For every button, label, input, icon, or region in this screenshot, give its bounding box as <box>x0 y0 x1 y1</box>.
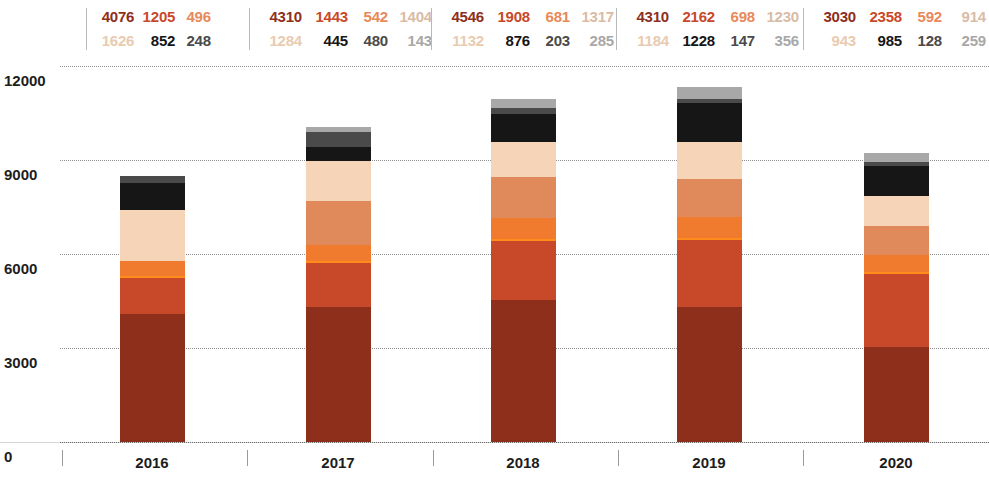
y-axis-label: 0 <box>4 448 56 465</box>
value-label: 542 <box>348 5 388 29</box>
bar-segment-s5 <box>491 142 556 177</box>
value-label: 203 <box>530 29 570 53</box>
bar-segment-s6 <box>306 147 371 161</box>
header-group-separator <box>616 8 617 50</box>
segment-divider-line <box>120 276 185 278</box>
value-label: 852 <box>134 29 175 53</box>
segment-divider-line <box>491 239 556 241</box>
value-label: 356 <box>755 29 799 53</box>
value-label: 681 <box>530 5 570 29</box>
x-axis-label-2017: 2017 <box>278 454 398 471</box>
bar-segment-s4 <box>864 226 929 255</box>
bar-segment-s1 <box>306 307 371 442</box>
bar-segment-s2 <box>677 239 742 307</box>
bar-segment-s2 <box>491 240 556 300</box>
bar-segment-s2 <box>864 273 929 347</box>
value-label: 1132 <box>440 29 484 53</box>
header-group-separator <box>249 8 250 50</box>
x-axis-tick <box>433 450 434 466</box>
value-label-row: 431021626981230 <box>625 5 810 29</box>
value-label-row: 1132876203285 <box>440 29 625 53</box>
bar-2019 <box>677 87 742 442</box>
bar-segment-s8 <box>677 87 742 98</box>
bar-segment-s1 <box>491 300 556 442</box>
value-label: 147 <box>715 29 755 53</box>
bar-segment-s8 <box>864 153 929 161</box>
value-label: 248 <box>175 29 211 53</box>
value-label-group-2016: 407612054961626852248 <box>95 4 250 54</box>
x-axis-tick <box>62 450 63 466</box>
value-label: 3030 <box>812 5 856 29</box>
value-label: 4076 <box>95 5 134 29</box>
value-label: 1284 <box>258 29 302 53</box>
value-label: 1443 <box>302 5 348 29</box>
gridline-0 <box>60 442 989 443</box>
x-axis-label-2016: 2016 <box>92 454 212 471</box>
bar-2020 <box>864 153 929 442</box>
bar-segment-s6 <box>120 183 185 210</box>
value-label: 285 <box>570 29 614 53</box>
value-label: 1230 <box>755 5 799 29</box>
bar-segment-s5 <box>120 210 185 261</box>
bar-2016 <box>120 176 185 442</box>
bar-2017 <box>306 127 371 442</box>
x-axis-label-2019: 2019 <box>649 454 769 471</box>
x-axis-tick <box>247 450 248 466</box>
value-label-row: 943985128259 <box>812 29 987 53</box>
value-label-row: 40761205496 <box>95 5 250 29</box>
value-label: 496 <box>175 5 211 29</box>
value-label: 1404 <box>388 5 432 29</box>
value-label: 914 <box>942 5 986 29</box>
bar-segment-s5 <box>306 161 371 201</box>
value-label: 592 <box>902 5 942 29</box>
value-label-header: 4076120549616268522484310144354214041284… <box>0 0 989 58</box>
value-label: 480 <box>348 29 388 53</box>
value-label: 143 <box>388 29 432 53</box>
segment-divider-line <box>677 238 742 240</box>
value-label: 2162 <box>669 5 715 29</box>
value-label-group-2018: 4546190868113171132876203285 <box>440 4 625 54</box>
value-label-group-2019: 43102162698123011841228147356 <box>625 4 810 54</box>
x-axis-label-2020: 2020 <box>836 454 956 471</box>
value-label: 4310 <box>625 5 669 29</box>
header-group-separator <box>803 8 804 50</box>
bar-segment-s7 <box>306 132 371 147</box>
bar-segment-s5 <box>864 196 929 226</box>
bar-segment-s8 <box>491 99 556 108</box>
y-axis-label: 6000 <box>4 260 56 277</box>
x-axis-tick <box>618 450 619 466</box>
gridline-12000 <box>60 66 989 67</box>
bar-segment-s6 <box>491 114 556 141</box>
value-label: 1184 <box>625 29 669 53</box>
bar-segment-s3 <box>864 255 929 274</box>
value-label: 445 <box>302 29 348 53</box>
bar-segment-s1 <box>120 314 185 442</box>
y-axis-label: 3000 <box>4 354 56 371</box>
value-label-row: 30302358592914 <box>812 5 987 29</box>
bar-2018 <box>491 99 556 442</box>
value-label: 876 <box>484 29 530 53</box>
value-label-group-2017: 4310144354214041284445480143 <box>258 4 443 54</box>
chart-plot-area: 12000900060003000020162017201820192020 <box>0 58 989 481</box>
value-label: 1317 <box>570 5 614 29</box>
value-label-group-2020: 30302358592914943985128259 <box>812 4 987 54</box>
bar-segment-s4 <box>491 177 556 218</box>
value-label: 1626 <box>95 29 134 53</box>
bar-segment-s3 <box>306 245 371 262</box>
value-label-row: 1284445480143 <box>258 29 443 53</box>
bar-segment-s3 <box>491 218 556 239</box>
value-label: 985 <box>856 29 902 53</box>
segment-divider-line <box>864 272 929 274</box>
bar-segment-s5 <box>677 142 742 179</box>
header-group-separator <box>86 8 87 50</box>
y-axis-label: 12000 <box>4 72 56 89</box>
bar-segment-s2 <box>120 276 185 314</box>
bar-segment-s4 <box>677 179 742 218</box>
bar-segment-s3 <box>120 261 185 277</box>
value-label: 1205 <box>134 5 175 29</box>
bar-segment-s1 <box>864 347 929 442</box>
value-label: 4310 <box>258 5 302 29</box>
value-label: 2358 <box>856 5 902 29</box>
bar-segment-s2 <box>306 262 371 307</box>
header-group-separator <box>431 8 432 50</box>
